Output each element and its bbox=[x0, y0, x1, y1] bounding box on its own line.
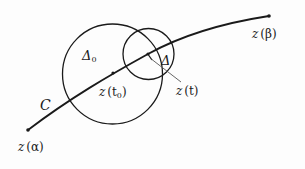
diagram-canvas: z(α) z(β) z(t0) z(t) C Δ0 Δ bbox=[0, 0, 305, 169]
diagram-figure: z(α) z(β) z(t0) z(t) C Δ0 Δ bbox=[0, 0, 305, 169]
label-z-alpha: z(α) bbox=[17, 140, 44, 154]
label-curve-c: C bbox=[40, 97, 51, 113]
label-z-beta: z(β) bbox=[251, 27, 277, 41]
label-z-t: z(t) bbox=[175, 84, 199, 98]
point-z-alpha bbox=[26, 128, 30, 132]
point-z-beta bbox=[267, 14, 271, 18]
label-z-t0: z(t0) bbox=[98, 85, 127, 100]
label-delta: Δ bbox=[160, 53, 170, 68]
curve-c bbox=[28, 16, 269, 130]
point-z-t0 bbox=[111, 71, 114, 74]
label-delta0: Δ0 bbox=[81, 48, 96, 64]
